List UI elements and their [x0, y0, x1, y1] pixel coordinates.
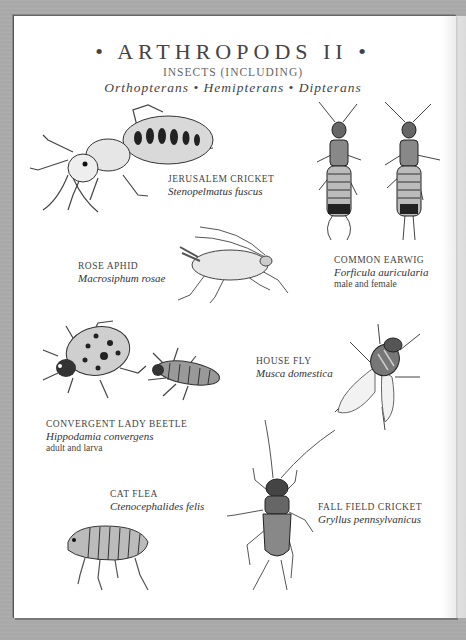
common-name: COMMON EARWIG — [334, 254, 428, 266]
common-name: JERUSALEM CRICKET — [168, 173, 274, 185]
common-name: ROSE APHID — [78, 260, 165, 272]
scientific-name: Macrosiphum rosae — [78, 272, 165, 284]
scientific-name: Musca domestica — [256, 367, 333, 379]
common-name: CAT FLEA — [110, 488, 204, 500]
specimen-note: adult and larva — [46, 442, 187, 454]
scientific-name: Forficula auricularia — [334, 266, 428, 278]
cat-flea-illustration — [60, 520, 160, 592]
specimen-label-rose-aphid: ROSE APHID Macrosiphum rosae — [78, 260, 165, 284]
specimen-label-cat-flea: CAT FLEA Ctenocephalides felis — [110, 488, 204, 512]
plate-subtitle: INSECTS (INCLUDING) — [0, 66, 466, 78]
scientific-name: Ctenocephalides felis — [110, 500, 204, 512]
common-name: HOUSE FLY — [256, 355, 333, 367]
specimen-label-convergent-lady-beetle: CONVERGENT LADY BEETLE Hippodamia conver… — [46, 418, 187, 454]
jerusalem-cricket-illustration — [28, 100, 223, 215]
scientific-name: Hippodamia convergens — [46, 430, 187, 442]
specimen-label-fall-field-cricket: FALL FIELD CRICKET Gryllus pennsylvanicu… — [318, 501, 422, 525]
plate-orders: Orthopterans • Hemipterans • Dipterans — [0, 80, 466, 96]
plate-title: • ARTHROPODS II • — [0, 39, 466, 65]
specimen-label-house-fly: HOUSE FLY Musca domestica — [256, 355, 333, 379]
common-name: CONVERGENT LADY BEETLE — [46, 418, 187, 430]
common-earwig-illustration — [305, 100, 450, 250]
specimen-label-common-earwig: COMMON EARWIG Forficula auricularia male… — [334, 254, 428, 290]
rose-aphid-illustration — [170, 225, 290, 305]
house-fly-illustration — [330, 322, 425, 432]
scientific-name: Stenopelmatus fuscus — [168, 185, 274, 197]
scientific-name: Gryllus pennsylvanicus — [318, 513, 422, 525]
common-name: FALL FIELD CRICKET — [318, 501, 422, 513]
lady-beetle-illustration — [38, 318, 228, 406]
specimen-label-jerusalem-cricket: JERUSALEM CRICKET Stenopelmatus fuscus — [168, 173, 274, 197]
specimen-note: male and female — [334, 278, 428, 290]
